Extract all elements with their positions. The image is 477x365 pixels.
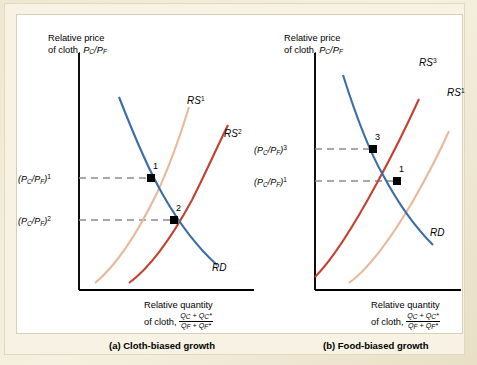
curve-label-rs1-sup-a: 1 [201, 95, 205, 102]
y-tick-label-price-1-b: (PC/PF)1 [254, 176, 287, 188]
y-axis-title-line1-b: Relative price [284, 33, 340, 43]
equilibrium-point-1 [147, 174, 155, 182]
curve-label-rd-b: RD [430, 227, 444, 238]
x-axis-title-line2-prefix-a: of cloth, [144, 316, 179, 326]
figure-frame: Relative price of cloth, PC/PF Relative … [4, 3, 465, 355]
y-axis-title-symbol-b: PC/PF [319, 45, 343, 55]
curve-rs3 [315, 99, 419, 277]
y-axis-title-line1-a: Relative price [48, 33, 104, 43]
x-axis-title-a: Relative quantity of cloth, QC + QC*QF +… [144, 300, 213, 332]
curve-label-rs1-b: RS1 [447, 87, 465, 98]
curve-label-rs3-text-b: RS [419, 57, 433, 68]
caption-panel-b: (b) Food-biased growth [323, 340, 429, 351]
chart-cloth-biased-growth: Relative price of cloth, PC/PF Relative … [17, 15, 257, 335]
caption-panel-a: (a) Cloth-biased growth [109, 340, 215, 351]
y-axis-title-b: Relative price of cloth, PC/PF [284, 33, 343, 57]
y-axis-title-a: Relative price of cloth, PC/PF [48, 33, 107, 57]
x-axis-fraction-a: QC + QC*QF + QF* [179, 312, 213, 333]
x-axis-title-line1-a: Relative quantity [144, 300, 213, 310]
y-tick-label-price-2-a: (PC/PF)2 [18, 215, 51, 227]
curve-rs1 [95, 107, 189, 283]
equilibrium-point-1 [393, 177, 401, 185]
point-label-2-a: 2 [176, 203, 181, 213]
curve-label-rs1-sup-b: 1 [461, 87, 465, 94]
x-axis-fraction-b: QC + QC*QF + QF* [406, 312, 440, 333]
point-label-3-b: 3 [375, 132, 380, 142]
curve-label-rd-text-a: RD [212, 262, 226, 273]
x-axis-title-line2-prefix-b: of cloth, [371, 316, 406, 326]
x-axis-title-line1-b: Relative quantity [371, 300, 440, 310]
curve-label-rd-a: RD [212, 262, 226, 273]
curve-label-rd-text-b: RD [430, 227, 444, 238]
equilibrium-point-3 [369, 145, 377, 153]
curve-label-rs1-a: RS1 [187, 95, 205, 106]
curve-label-rs1-text-a: RS [187, 95, 201, 106]
x-axis-title-b: Relative quantity of cloth, QC + QC*QF +… [371, 300, 440, 332]
equilibrium-point-2 [170, 216, 178, 224]
curve-label-rs3-b: RS3 [419, 57, 437, 68]
point-label-1-b: 1 [399, 164, 404, 174]
y-axis-title-line2-prefix-b: of cloth, [284, 45, 319, 55]
y-tick-label-price-1-a: (PC/PF)1 [18, 173, 51, 185]
x-axis-fraction-den-b: QF + QF* [406, 322, 440, 332]
curve-label-rs2-a: RS2 [224, 128, 242, 139]
y-axis-title-line2-prefix-a: of cloth, [48, 45, 83, 55]
point-label-1-a: 1 [153, 161, 158, 171]
curve-label-rs1-text-b: RS [447, 87, 461, 98]
x-axis-fraction-den-a: QF + QF* [179, 322, 213, 332]
figure-container: Relative price of cloth, PC/PF Relative … [0, 0, 477, 365]
y-tick-label-price-3-b: (PC/PF)3 [254, 144, 287, 156]
chart-food-biased-growth: Relative price of cloth, PC/PF Relative … [253, 15, 464, 335]
chart-a-svg [17, 15, 257, 335]
figure-panel: Relative price of cloth, PC/PF Relative … [16, 14, 463, 334]
curve-label-rs2-sup-a: 2 [238, 128, 242, 135]
y-axis-title-symbol-a: PC/PF [83, 45, 107, 55]
chart-a-plot-area [17, 15, 257, 335]
curve-label-rs2-text-a: RS [224, 128, 238, 139]
curve-label-rs3-sup-b: 3 [433, 57, 437, 64]
